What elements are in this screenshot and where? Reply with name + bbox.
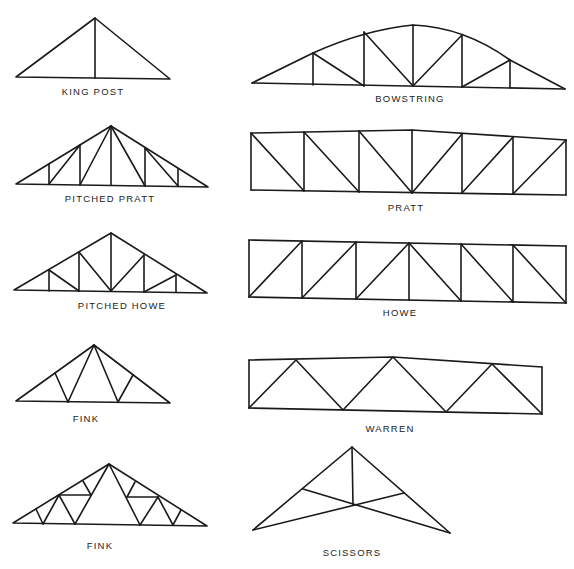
label-pitched-howe: PITCHED HOWE <box>78 300 166 311</box>
truss-pitched-pratt <box>16 126 208 187</box>
truss-pitched-howe <box>14 233 207 293</box>
label-warren: WARREN <box>365 423 414 434</box>
label-bowstring: BOWSTRING <box>375 93 444 104</box>
truss-king-post <box>16 18 170 79</box>
truss-bowstring <box>252 25 565 89</box>
label-pratt: PRATT <box>388 202 424 213</box>
label-fink-1: FINK <box>73 413 99 424</box>
truss-scissors <box>253 447 450 533</box>
truss-fink-compound <box>13 464 207 526</box>
label-king-post: KING POST <box>62 86 125 97</box>
truss-warren <box>249 357 542 414</box>
label-howe: HOWE <box>383 307 417 318</box>
label-fink-2: FINK <box>87 540 113 551</box>
truss-fink-simple <box>16 345 170 403</box>
label-scissors: SCISSORS <box>323 547 382 558</box>
truss-pratt <box>251 130 566 195</box>
truss-howe <box>249 240 566 303</box>
label-pitched-pratt: PITCHED PRATT <box>65 193 155 204</box>
